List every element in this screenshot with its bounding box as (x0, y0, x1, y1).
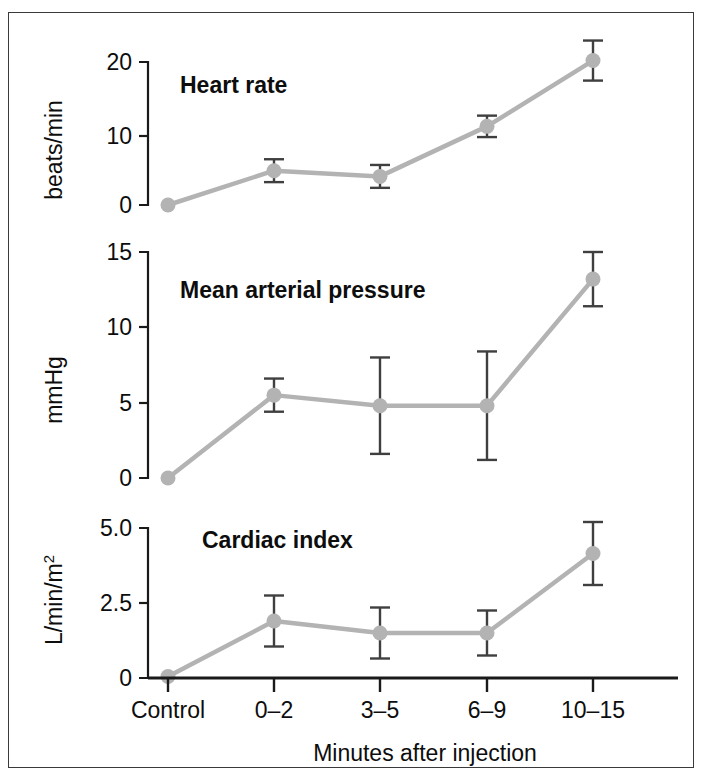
cardiac-index-y-ticklabels: 02.55.0 (100, 515, 132, 691)
map-y-ticklabels: 051015 (106, 239, 132, 491)
ci-data-point (586, 546, 601, 561)
ci-data-point (267, 614, 282, 629)
map-data-point (480, 398, 495, 413)
x-axis-ticks (168, 678, 593, 692)
ci-ytick-label: 2.5 (100, 590, 132, 616)
x-axis-category-labels: Control0–23–56–910–15 (131, 697, 625, 723)
hr-data-point (267, 163, 282, 178)
map-data-point (267, 388, 282, 403)
hr-data-point (161, 198, 176, 213)
cardiac-index-y-axis-label: L/min/m2 (40, 555, 67, 645)
x-axis: Control0–23–56–910–15 Minutes after inje… (131, 678, 678, 766)
heart-rate-errorbars (264, 41, 603, 188)
heart-rate-panel-title: Heart rate (180, 72, 287, 98)
panel-heart-rate: 01020 beats/min Heart rate (41, 41, 603, 218)
map-ytick-label: 5 (119, 390, 132, 416)
ci-data-point (373, 626, 388, 641)
hr-ytick-label: 0 (119, 192, 132, 218)
ci-ytick-label: 5.0 (100, 515, 132, 541)
hr-data-point (480, 119, 495, 134)
map-ytick-label: 15 (106, 239, 132, 265)
map-panel-title: Mean arterial pressure (180, 277, 425, 303)
hr-data-point (586, 53, 601, 68)
map-data-point (161, 471, 176, 486)
heart-rate-y-ticklabels: 01020 (106, 49, 132, 218)
x-axis-title: Minutes after injection (313, 740, 537, 766)
hr-ytick-label: 20 (106, 49, 132, 75)
x-axis-label-4: 10–15 (561, 697, 625, 723)
x-axis-label-1: 0–2 (255, 697, 293, 723)
map-y-axis-spine (139, 252, 148, 478)
hr-ytick-label: 10 (106, 123, 132, 149)
map-y-ticks (139, 327, 148, 403)
map-data-point (586, 272, 601, 287)
map-data-point (373, 398, 388, 413)
ci-data-point (480, 626, 495, 641)
ci-ytick-label: 0 (119, 665, 132, 691)
map-y-axis-label: mmHg (41, 356, 67, 424)
three-panel-line-chart: 01020 beats/min Heart rate 051015 mmHg M… (0, 0, 704, 780)
heart-rate-y-axis-spine (139, 62, 148, 205)
panel-cardiac-index: 02.55.0 L/min/m2 Cardiac index (40, 515, 603, 691)
x-axis-label-0: Control (131, 697, 205, 723)
panel-mean-arterial-pressure: 051015 mmHg Mean arterial pressure (41, 239, 603, 491)
heart-rate-y-axis-label: beats/min (41, 100, 67, 200)
map-ytick-label: 0 (119, 465, 132, 491)
x-axis-label-2: 3–5 (361, 697, 399, 723)
map-ytick-label: 10 (106, 314, 132, 340)
x-axis-label-3: 6–9 (468, 697, 506, 723)
hr-data-point (373, 169, 388, 184)
cardiac-index-panel-title: Cardiac index (202, 527, 353, 553)
